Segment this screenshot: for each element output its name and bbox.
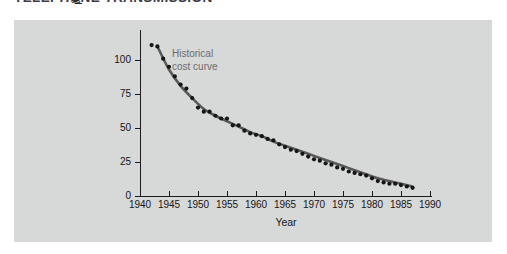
data-point	[202, 110, 206, 114]
data-point	[358, 172, 362, 176]
data-point	[387, 182, 391, 186]
data-point	[173, 74, 177, 78]
data-point	[289, 148, 293, 152]
historical-cost-curve	[157, 46, 412, 186]
data-point	[248, 131, 252, 135]
data-point	[155, 44, 159, 48]
data-point	[237, 123, 241, 127]
data-point	[231, 123, 235, 127]
data-point	[341, 167, 345, 171]
data-point	[219, 116, 223, 120]
data-point	[213, 114, 217, 118]
data-point	[266, 137, 270, 141]
data-point	[306, 154, 310, 158]
data-point	[376, 179, 380, 183]
data-point	[161, 57, 165, 61]
data-point	[312, 157, 316, 161]
data-point	[405, 184, 409, 188]
data-point	[382, 180, 386, 184]
data-point	[260, 134, 264, 138]
data-point	[318, 159, 322, 163]
data-point	[150, 43, 154, 47]
data-point	[324, 161, 328, 165]
data-point-group	[150, 43, 415, 190]
data-point	[242, 129, 246, 133]
data-point	[295, 149, 299, 153]
data-point	[370, 176, 374, 180]
data-point	[254, 133, 258, 137]
data-point	[347, 169, 351, 173]
data-point	[208, 110, 212, 114]
data-point	[329, 163, 333, 167]
data-point	[167, 65, 171, 69]
data-point	[190, 96, 194, 100]
data-point	[411, 186, 415, 190]
data-point	[184, 86, 188, 90]
plot-area	[0, 0, 507, 254]
data-point	[179, 82, 183, 86]
data-point	[364, 174, 368, 178]
data-point	[196, 106, 200, 110]
data-point	[335, 165, 339, 169]
data-point	[271, 138, 275, 142]
data-point	[300, 152, 304, 156]
data-point	[277, 142, 281, 146]
data-point	[283, 145, 287, 149]
data-point	[399, 183, 403, 187]
data-point	[353, 171, 357, 175]
data-point	[393, 182, 397, 186]
data-point	[225, 116, 229, 120]
